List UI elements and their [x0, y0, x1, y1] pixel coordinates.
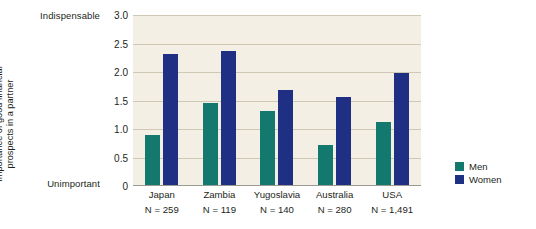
bar-group-zambia	[191, 15, 249, 186]
y-tick-label-2.5: 2.5	[96, 38, 128, 49]
legend-item-men: Men	[455, 160, 502, 173]
x-category-australia: AustraliaN = 280	[306, 189, 364, 215]
bar-australia-women	[336, 97, 351, 186]
legend-swatch-women-icon	[455, 175, 464, 184]
bar-group-yugoslavia	[248, 15, 306, 186]
x-category-sample-size: N = 1,491	[363, 204, 421, 215]
bar-australia-men	[318, 145, 333, 186]
y-tick-label-2.0: 2.0	[96, 67, 128, 78]
legend-label: Women	[469, 174, 502, 185]
x-category-usa: USAN = 1,491	[363, 189, 421, 215]
legend-label: Men	[469, 161, 487, 172]
x-category-name: Australia	[306, 189, 364, 200]
x-category-sample-size: N = 119	[191, 204, 249, 215]
y-tick-label-3.0: 3.0	[96, 10, 128, 21]
y-tick-label-1.5: 1.5	[96, 95, 128, 106]
x-category-zambia: ZambiaN = 119	[191, 189, 249, 215]
y-tick-label-1.0: 1.0	[96, 124, 128, 135]
x-category-sample-size: N = 280	[306, 204, 364, 215]
bar-yugoslavia-women	[278, 90, 293, 186]
x-category-name: Japan	[133, 189, 191, 200]
bar-zambia-women	[221, 51, 236, 186]
y-tick-label-0: 0	[96, 181, 128, 192]
bar-yugoslavia-men	[260, 111, 275, 186]
bar-group-usa	[363, 15, 421, 186]
x-category-sample-size: N = 140	[248, 204, 306, 215]
x-category-yugoslavia: YugoslaviaN = 140	[248, 189, 306, 215]
bar-japan-women	[163, 54, 178, 186]
legend-swatch-men-icon	[455, 162, 464, 171]
y-axis-title-line-2: prospects in a partner	[5, 40, 16, 208]
bar-group-japan	[133, 15, 191, 186]
y-axis-tick-labels: 00.51.01.52.02.53.0	[96, 0, 128, 229]
x-category-name: Zambia	[191, 189, 249, 200]
bar-japan-men	[145, 135, 160, 186]
x-category-sample-size: N = 259	[133, 204, 191, 215]
y-axis-top-endpoint-label: Indispensable	[18, 10, 100, 21]
x-category-japan: JapanN = 259	[133, 189, 191, 215]
legend-item-women: Women	[455, 173, 502, 186]
y-tick-label-0.5: 0.5	[96, 152, 128, 163]
plot-area	[133, 15, 421, 186]
bar-zambia-men	[203, 103, 218, 186]
x-axis-category-labels: JapanN = 259ZambiaN = 119YugoslaviaN = 1…	[133, 189, 421, 227]
bar-usa-men	[376, 122, 391, 186]
chart-legend: MenWomen	[455, 160, 502, 186]
x-category-name: Yugoslavia	[248, 189, 306, 200]
bar-series-container	[133, 15, 421, 186]
bar-chart-figure: Indispensable Unimportant Importance of …	[0, 0, 536, 229]
x-category-name: USA	[363, 189, 421, 200]
bar-group-australia	[306, 15, 364, 186]
bar-usa-women	[394, 73, 409, 186]
y-axis-bottom-endpoint-label: Unimportant	[18, 178, 100, 189]
y-axis-title: Importance of good financial prospects i…	[0, 40, 24, 208]
